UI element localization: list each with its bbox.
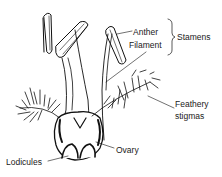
feathery-stigma-left [16,88,60,122]
anther-left [43,13,52,53]
leader-feathery-stigmas [148,96,174,108]
flower-illustration [0,0,222,177]
label-filament: Filament [129,41,162,50]
leader-filament [106,52,146,82]
label-stamens: Stamens [177,33,211,42]
grass-flower-diagram: Anther Filament Stamens Feathery stigmas… [0,0,222,177]
label-feathery: Feathery [175,100,209,109]
label-lodicules: Lodicules [6,158,42,167]
anther-middle [56,21,88,57]
filament-right [102,34,108,140]
filament-left-2 [68,58,73,110]
label-ovary: Ovary [116,146,139,155]
anther-right [106,26,126,64]
stamens-brace [168,19,175,55]
label-stigmas: stigmas [175,112,204,121]
leader-lodicules [48,156,68,161]
label-anther: Anther [133,28,158,37]
leader-anther [117,31,132,34]
